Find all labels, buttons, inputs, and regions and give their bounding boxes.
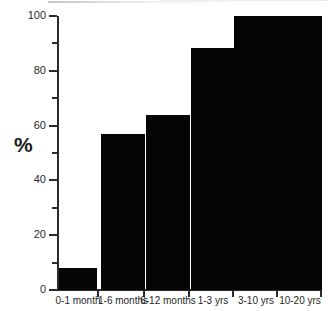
y-tick-label-20: 20: [16, 229, 46, 240]
bar: [191, 48, 235, 290]
y-tick-minor-30: [52, 207, 57, 209]
y-tick-label-0: 0: [16, 284, 46, 295]
bar: [146, 115, 190, 290]
y-tick-label-80: 80: [16, 65, 46, 76]
bar: [101, 134, 145, 290]
y-tick-label-100: 100: [16, 10, 46, 21]
y-tick-label-60: 60: [16, 120, 46, 131]
bar-chart-figure: % 020406080100 0-1 month1-6 months6-12 m…: [0, 0, 328, 311]
y-tick-minor-10: [52, 262, 57, 264]
y-tick-minor-70: [52, 97, 57, 99]
y-tick-major-0: [49, 289, 57, 291]
y-tick-major-80: [49, 70, 57, 72]
y-tick-minor-90: [52, 42, 57, 44]
bar: [278, 16, 322, 290]
y-axis-title: %: [6, 133, 40, 157]
y-tick-minor-50: [52, 152, 57, 154]
category-label: 10-20 yrs: [269, 295, 328, 307]
scan-artifact-secondary: [160, 0, 328, 1]
scan-artifact: [48, 1, 320, 3]
y-tick-major-40: [49, 179, 57, 181]
bar: [234, 16, 278, 290]
y-tick-major-60: [49, 125, 57, 127]
y-tick-label-40: 40: [16, 174, 46, 185]
y-tick-major-20: [49, 234, 57, 236]
bar: [59, 268, 97, 290]
y-axis-line: [57, 16, 59, 291]
y-tick-major-100: [49, 15, 57, 17]
